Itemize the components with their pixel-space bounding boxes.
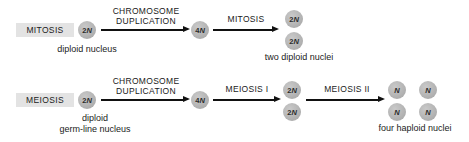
meiosis-middle-nucleus: 4N [191, 91, 209, 109]
meiosis-duplication-label: CHROMOSOME DUPLICATION [102, 76, 190, 96]
meiosis-product-nucleus-4: N [419, 103, 437, 121]
meiosis-duplication-arrow-head [183, 96, 190, 102]
meiosis-intermediate-1-letter: N [291, 86, 296, 95]
mitosis-duplication-label: CHROMOSOME DUPLICATION [102, 6, 190, 26]
meiosis-product-caption: four haploid nuclei [363, 123, 467, 134]
meiosis-one-arrow-line [213, 99, 275, 101]
meiosis-duplication-arrow-line [101, 99, 184, 101]
mitosis-start-nucleus-letter: N [86, 26, 91, 35]
mitosis-product-2-letter: N [293, 37, 298, 46]
meiosis-start-caption-line2: germ-line nucleus [30, 124, 160, 135]
meiosis-one-arrow-head [274, 96, 281, 102]
meiosis-start-caption-line1: diploid [30, 113, 160, 124]
meiosis-middle-nucleus-letter: N [199, 96, 204, 105]
meiosis-product-nucleus-1: N [388, 81, 406, 99]
meiosis-two-label: MEIOSIS II [308, 84, 386, 94]
meiosis-intermediate-nucleus-1: 2N [283, 81, 301, 99]
meiosis-product-nucleus-3: N [388, 103, 406, 121]
mitosis-middle-nucleus: 4N [191, 21, 209, 39]
mitosis-division-arrow-head [272, 26, 279, 32]
meiosis-two-arrow-line [306, 99, 379, 101]
mitosis-duplication-label-line2: DUPLICATION [102, 16, 190, 26]
mitosis-middle-nucleus-letter: N [199, 26, 204, 35]
mitosis-start-nucleus: 2N [78, 21, 96, 39]
mitosis-meiosis-diagram: MITOSIS 2N diploid nucleus CHROMOSOME DU… [0, 0, 469, 142]
meiosis-product-2-letter: N [425, 86, 430, 95]
mitosis-duplication-arrow-line [101, 29, 184, 31]
mitosis-process-label: MITOSIS [16, 23, 74, 37]
meiosis-product-1-letter: N [394, 86, 399, 95]
mitosis-product-1-letter: N [293, 15, 298, 24]
mitosis-product-nucleus-2: 2N [285, 32, 303, 50]
mitosis-division-arrow-line [213, 29, 273, 31]
meiosis-duplication-label-line2: DUPLICATION [102, 86, 190, 96]
mitosis-product-caption: two diploid nuclei [244, 52, 354, 63]
mitosis-division-label: MITOSIS [212, 14, 280, 24]
meiosis-start-caption: diploid germ-line nucleus [30, 113, 160, 135]
meiosis-product-nucleus-2: N [419, 81, 437, 99]
meiosis-two-arrow-head [378, 96, 385, 102]
meiosis-product-4-letter: N [425, 108, 430, 117]
mitosis-start-caption: diploid nucleus [42, 44, 132, 55]
meiosis-start-nucleus-letter: N [86, 96, 91, 105]
mitosis-duplication-label-line1: CHROMOSOME [102, 6, 190, 16]
meiosis-product-3-letter: N [394, 108, 399, 117]
meiosis-intermediate-2-letter: N [291, 108, 296, 117]
meiosis-start-nucleus: 2N [78, 91, 96, 109]
meiosis-process-label: MEIOSIS [16, 93, 74, 107]
mitosis-product-nucleus-1: 2N [285, 10, 303, 28]
meiosis-duplication-label-line1: CHROMOSOME [102, 76, 190, 86]
meiosis-one-label: MEIOSIS I [212, 84, 282, 94]
meiosis-intermediate-nucleus-2: 2N [283, 103, 301, 121]
mitosis-duplication-arrow-head [183, 26, 190, 32]
